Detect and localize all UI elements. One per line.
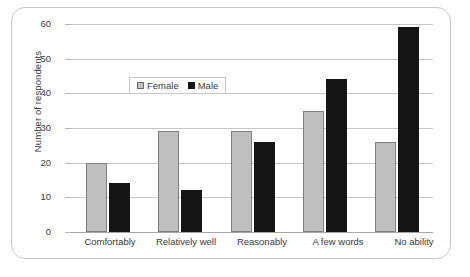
x-axis-tick-label: A few words	[300, 236, 376, 247]
y-axis-tick-mark	[65, 232, 71, 233]
bar-male-no-ability	[398, 27, 419, 232]
x-axis-line	[71, 232, 433, 233]
legend-swatch-female-icon	[137, 82, 144, 89]
legend-item-male: Male	[188, 80, 219, 91]
y-axis-tick-mark	[65, 24, 71, 25]
y-axis-tick-mark	[65, 128, 71, 129]
chart-legend: Female Male	[129, 77, 226, 94]
y-axis-tick-mark	[65, 93, 71, 94]
y-axis-tick-mark	[65, 197, 71, 198]
bar-male-a-few-words	[326, 79, 347, 232]
bar-female-a-few-words	[303, 111, 324, 232]
plot-area: 6050403020100	[62, 24, 433, 232]
bar-female-no-ability	[375, 142, 396, 232]
y-axis-tick-label: 60	[11, 18, 51, 29]
legend-label-female: Female	[147, 80, 179, 91]
bar-groups	[72, 24, 433, 232]
y-axis-tick-label: 0	[11, 226, 51, 237]
bar-group	[72, 24, 144, 232]
y-axis-tick-label: 50	[11, 53, 51, 64]
bar-female-relatively-well	[158, 131, 179, 232]
y-axis-tick-label: 10	[11, 191, 51, 202]
bar-group	[144, 24, 216, 232]
y-axis-tick-label: 40	[11, 87, 51, 98]
bar-male-comfortably	[109, 183, 130, 232]
chart-figure: Number of respondents 6050403020100 Comf…	[11, 7, 451, 259]
legend-swatch-male-icon	[188, 82, 195, 89]
y-axis-tick-label: 20	[11, 157, 51, 168]
bar-male-reasonably	[254, 142, 275, 232]
legend-label-male: Male	[198, 80, 219, 91]
bar-group	[289, 24, 361, 232]
y-axis-tick-mark	[65, 59, 71, 60]
legend-item-female: Female	[137, 80, 179, 91]
bar-female-reasonably	[231, 131, 252, 232]
x-axis-tick-label: Relatively well	[148, 236, 224, 247]
bar-group	[216, 24, 288, 232]
figure-caption	[12, 268, 458, 277]
x-axis-tick-label: No ability	[376, 236, 452, 247]
y-axis-tick-mark	[65, 163, 71, 164]
x-axis-tick-label: Reasonably	[224, 236, 300, 247]
bar-male-relatively-well	[181, 190, 202, 232]
bar-female-comfortably	[86, 163, 107, 232]
bar-group	[361, 24, 433, 232]
x-axis-tick-label: Comfortably	[72, 236, 148, 247]
x-axis-labels: ComfortablyRelatively wellReasonablyA fe…	[72, 236, 452, 247]
chart-plot-wrapper: Number of respondents 6050403020100 Comf…	[12, 8, 452, 260]
y-axis-tick-label: 30	[11, 122, 51, 133]
